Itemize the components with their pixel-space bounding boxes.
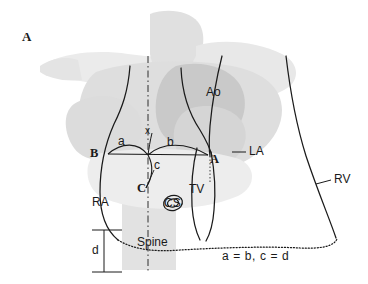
label-segment-c: c — [154, 159, 160, 171]
rv-leader-line — [316, 180, 331, 184]
arc-segment-b — [148, 145, 208, 155]
label-segment-b: b — [167, 136, 174, 148]
point-c-leader-line — [146, 170, 154, 188]
label-ra: RA — [92, 196, 109, 208]
label-ao: Ao — [206, 86, 221, 98]
label-cs: CS — [164, 197, 181, 209]
panel-label: A — [22, 30, 31, 43]
label-rv: RV — [334, 173, 350, 185]
label-spine: Spine — [137, 236, 168, 248]
label-point-x: x — [145, 126, 150, 136]
label-point-a: A — [210, 153, 219, 166]
label-segment-d: d — [92, 244, 99, 256]
echocardiogram-figure: A Ao LA RV RA TV CS Spine B A C x a b c … — [0, 0, 368, 284]
label-la: LA — [249, 145, 264, 157]
measurement-layer — [0, 0, 368, 284]
label-segment-a: a — [118, 135, 125, 147]
label-point-c: C — [137, 182, 146, 195]
label-tv: TV — [189, 183, 204, 195]
chord-b-to-a-line — [108, 154, 208, 155]
equation-text: a = b, c = d — [222, 250, 289, 262]
arc-segment-c — [146, 155, 152, 188]
label-point-b: B — [90, 147, 98, 160]
